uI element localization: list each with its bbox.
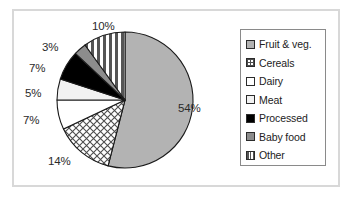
pie-chart [55,30,195,170]
legend-swatch-processed [246,114,255,123]
legend-label-baby-food: Baby food [259,131,305,143]
legend-item-cereals[interactable]: Cereals [246,54,325,73]
slice-label-meat: 5% [25,87,41,99]
legend-swatch-other [246,151,255,160]
slice-label-other: 10% [92,20,114,32]
pie-chart-figure: 54% 14% 7% 5% 7% 3% 10% Fruit & veg. Cer… [0,0,352,199]
legend-label-processed: Processed [259,112,308,124]
legend-label-fruit-veg: Fruit & veg. [259,38,312,50]
legend-item-meat[interactable]: Meat [246,91,325,110]
slice-label-baby-food: 3% [42,41,58,53]
legend-label-dairy: Dairy [259,75,283,87]
legend-item-processed[interactable]: Processed [246,109,325,128]
pie-svg [55,30,195,170]
legend-swatch-cereals [246,58,255,67]
legend-label-cereals: Cereals [259,57,294,69]
legend-swatch-meat [246,95,255,104]
pie-slices [57,32,193,168]
legend-item-baby-food[interactable]: Baby food [246,128,325,147]
slice-label-cereals: 14% [48,155,70,167]
slice-label-dairy: 7% [23,114,39,126]
legend-swatch-dairy [246,77,255,86]
legend-label-meat: Meat [259,94,282,106]
legend-swatch-baby-food [246,132,255,141]
legend-label-other: Other [259,149,285,161]
legend: Fruit & veg. Cereals Dairy Meat Processe… [240,29,326,166]
legend-swatch-fruit-veg [246,40,255,49]
slice-label-processed: 7% [29,62,45,74]
legend-item-dairy[interactable]: Dairy [246,72,325,91]
legend-item-fruit-veg[interactable]: Fruit & veg. [246,35,325,54]
legend-item-other[interactable]: Other [246,146,325,165]
slice-label-fruit-veg: 54% [178,102,200,114]
